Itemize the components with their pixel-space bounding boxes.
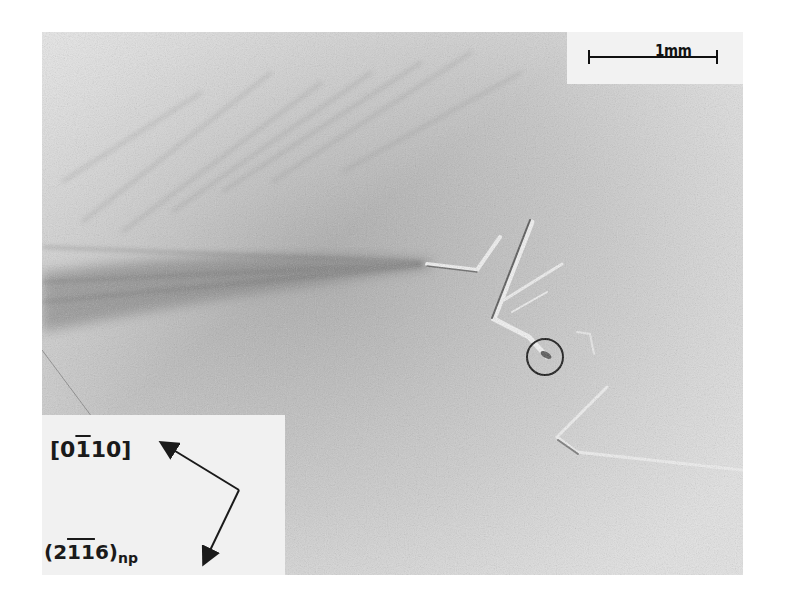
micrograph: 1mm [0110] (2116)np [42, 32, 743, 575]
plane-label: (2116)np [44, 540, 138, 566]
direction-label: [0110] [50, 437, 131, 462]
scale-bar-box: 1mm [567, 32, 743, 84]
scale-bar-line [589, 56, 717, 58]
scale-bar-tick-right [716, 50, 718, 64]
orientation-inset: [0110] (2116)np [42, 415, 285, 575]
